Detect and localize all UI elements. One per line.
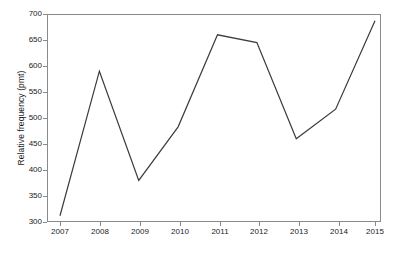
line-chart: Relative frequency (pmt) 700 650 600 550… (0, 0, 399, 254)
x-tick-mark (180, 222, 181, 226)
x-tick-mark (375, 222, 376, 226)
x-tick-label: 2007 (40, 227, 80, 236)
x-tick-label: 2013 (279, 227, 319, 236)
x-tick-label: 2009 (120, 227, 160, 236)
x-tick-mark (259, 222, 260, 226)
x-tick-label: 2011 (200, 227, 240, 236)
x-tick-label: 2010 (160, 227, 200, 236)
x-tick-label: 2012 (239, 227, 279, 236)
x-tick-mark (339, 222, 340, 226)
data-series-line (47, 14, 381, 222)
x-tick-label: 2008 (80, 227, 120, 236)
series-relative-frequency (60, 21, 375, 216)
x-tick-mark (220, 222, 221, 226)
x-tick-mark (299, 222, 300, 226)
x-tick-mark (100, 222, 101, 226)
x-tick-label: 2015 (355, 227, 395, 236)
x-tick-mark (60, 222, 61, 226)
x-tick-label: 2014 (319, 227, 359, 236)
x-tick-mark (140, 222, 141, 226)
